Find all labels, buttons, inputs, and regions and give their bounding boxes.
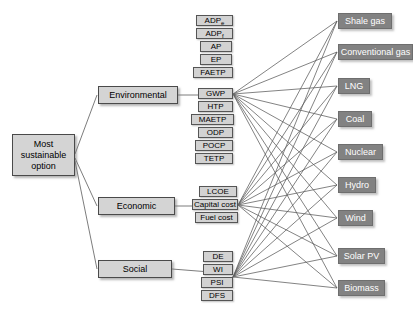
node-indicator-maetp-label: MAETP (199, 115, 227, 124)
node-indicator-htp: HTP (198, 101, 233, 112)
node-technology-wind-label: Wind (345, 213, 366, 223)
node-goal-line-2: sustainable (21, 150, 67, 161)
node-technology-conventional-gas-label: Conventional gas (341, 47, 411, 57)
node-indicator-adpe-label: ADPe (205, 16, 225, 25)
node-indicator-tetp: TETP (195, 153, 233, 164)
node-indicator-dfs-label: DFS (209, 291, 225, 300)
node-indicator-psi-label: PSI (211, 278, 224, 287)
node-indicator-gwp: GWP (198, 88, 233, 99)
node-criterion-economic-label: Economic (117, 201, 157, 211)
node-indicator-dfs: DFS (201, 290, 233, 301)
node-technology-coal-label: Coal (346, 114, 365, 124)
node-indicator-htp-label: HTP (208, 102, 224, 111)
node-criterion-economic: Economic (98, 197, 175, 215)
node-indicator-pocp: POCP (195, 140, 233, 151)
node-technology-solar-pv: Solar PV (338, 248, 385, 264)
node-indicator-faetp: FAETP (193, 67, 233, 78)
node-indicator-wi: WI (203, 264, 233, 275)
node-indicator-odp-label: ODP (207, 128, 224, 137)
edge-goal-environmental (75, 95, 97, 154)
node-technology-lng: LNG (338, 78, 370, 94)
node-technology-conventional-gas: Conventional gas (338, 44, 413, 60)
ahp-hierarchy-diagram: Most sustainable option Environmental Ec… (0, 0, 413, 311)
node-indicator-tetp-label: TETP (204, 154, 224, 163)
node-indicator-ap: AP (200, 41, 232, 52)
node-indicator-gwp-label: GWP (206, 89, 225, 98)
node-technology-solar-pv-label: Solar PV (344, 251, 380, 261)
node-indicator-pocp-label: POCP (203, 141, 226, 150)
node-indicator-odp: ODP (198, 127, 233, 138)
node-indicator-capital-cost-label: Capital cost (194, 200, 236, 209)
node-criterion-environmental-label: Environmental (109, 90, 167, 100)
node-indicator-maetp: MAETP (191, 114, 234, 125)
edge-goal-economic (75, 158, 97, 206)
node-indicator-capital-cost: Capital cost (192, 199, 238, 210)
node-technology-hydro: Hydro (338, 177, 376, 193)
node-technology-lng-label: LNG (345, 81, 364, 91)
node-technology-coal: Coal (338, 111, 372, 127)
node-indicator-ap-label: AP (211, 42, 222, 51)
node-technology-biomass: Biomass (338, 280, 385, 296)
node-indicator-ep: EP (200, 54, 232, 65)
node-indicator-faetp-label: FAETP (200, 68, 225, 77)
node-technology-shale-gas: Shale gas (338, 13, 392, 29)
node-indicator-psi: PSI (201, 277, 233, 288)
node-criterion-social-label: Social (123, 264, 148, 274)
node-indicator-adpf-label: ADPf (205, 29, 223, 38)
node-goal: Most sustainable option (12, 134, 75, 176)
node-technology-nuclear: Nuclear (338, 144, 383, 160)
node-criterion-environmental: Environmental (98, 86, 178, 104)
node-indicator-fuel-cost: Fuel cost (195, 212, 238, 223)
node-indicator-wi-label: WI (213, 265, 223, 274)
node-indicator-adpe: ADPe (196, 15, 233, 26)
node-indicator-lcoe: LCOE (199, 186, 237, 197)
node-indicator-de-label: DE (212, 252, 223, 261)
node-technology-hydro-label: Hydro (345, 180, 369, 190)
node-criterion-social: Social (98, 260, 172, 278)
node-technology-nuclear-label: Nuclear (345, 147, 376, 157)
node-indicator-lcoe-label: LCOE (207, 187, 229, 196)
node-technology-shale-gas-label: Shale gas (345, 16, 385, 26)
node-indicator-adpf: ADPf (196, 28, 233, 39)
node-indicator-fuel-cost-label: Fuel cost (200, 213, 232, 222)
node-goal-line-3: option (31, 161, 56, 172)
node-goal-line-1: Most (34, 139, 54, 150)
edge-goal-social (75, 161, 97, 269)
node-technology-wind: Wind (338, 210, 373, 226)
node-indicator-ep-label: EP (211, 55, 222, 64)
node-indicator-de: DE (203, 251, 233, 262)
node-technology-biomass-label: Biomass (344, 283, 379, 293)
edges-capital-cost-to-technologies (238, 21, 337, 288)
